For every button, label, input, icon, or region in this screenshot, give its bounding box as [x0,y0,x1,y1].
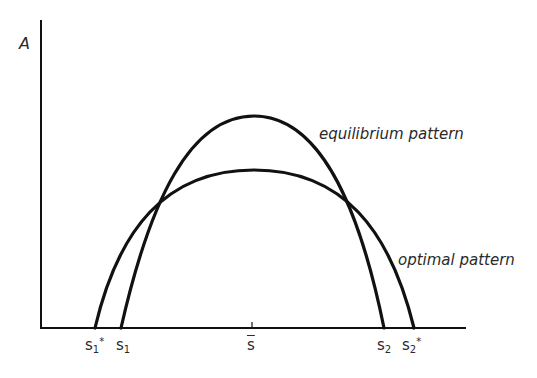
optimal-pattern-label: optimal pattern [398,251,515,269]
s1-star-label: s1* [85,336,104,355]
y-axis-label: A [19,34,30,53]
equilibrium-pattern-label: equilibrium pattern [319,125,464,143]
s1-label: s1 [116,336,130,355]
diagram-canvas [0,0,537,378]
equilibrium-pattern-curve [121,116,384,328]
s2-label: s2 [377,336,391,355]
diagram: A equilibrium pattern optimal pattern s1… [0,0,537,378]
s-bar-label: s [247,336,255,354]
s2-star-label: s2* [402,336,421,355]
